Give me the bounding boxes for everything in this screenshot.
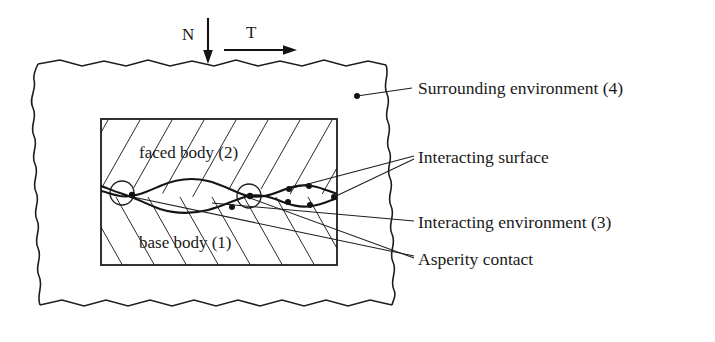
surface-dot-lower-2 (307, 202, 313, 208)
callout-asperity-contact: Asperity contact (418, 249, 533, 269)
tribology-contact-diagram: N T faced body (2) base body (1) Surroun… (0, 0, 715, 342)
callout-interacting-surface: Interacting surface (418, 147, 549, 167)
tangential-force-arrow (224, 45, 297, 55)
leader-surrounding-environment (354, 88, 412, 99)
surface-dot-lower-1 (285, 199, 291, 205)
faced-body-label: faced body (2) (139, 143, 238, 162)
tangential-force-label: T (246, 23, 257, 42)
normal-force-label: N (182, 25, 194, 44)
callout-interacting-environment: Interacting environment (3) (418, 212, 612, 232)
diagram-canvas: N T faced body (2) base body (1) Surroun… (0, 0, 715, 342)
callout-surrounding-environment: Surrounding environment (4) (418, 78, 623, 98)
base-body-label: base body (1) (139, 233, 232, 252)
surrounding-environment-anchor-dot (354, 93, 360, 99)
normal-force-arrow (203, 18, 213, 64)
